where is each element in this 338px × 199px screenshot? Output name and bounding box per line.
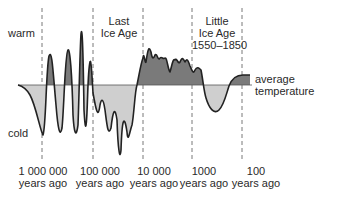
temperature-text: temperature: [255, 85, 314, 97]
last-ice-age-label: Last Ice Age: [99, 15, 139, 39]
tick-unit: years ago: [176, 177, 232, 189]
last-ice-age-line1: Last: [99, 15, 139, 27]
little-ice-age-line2: Ice Age: [192, 27, 242, 39]
tick-unit: years ago: [15, 177, 71, 189]
average-temperature-label: average temperature: [255, 73, 314, 97]
little-ice-age-line1: Little: [192, 15, 242, 27]
tick-value: 100: [228, 165, 284, 177]
tick-label-10000: 10 000 years ago: [126, 165, 182, 189]
tick-label-100: 100 years ago: [228, 165, 284, 189]
tick-label-1000000: 1 000 000 years ago: [15, 165, 71, 189]
tick-value: 1000: [176, 165, 232, 177]
tick-value: 10 000: [126, 165, 182, 177]
tick-value: 1 000 000: [15, 165, 71, 177]
tick-unit: years ago: [126, 177, 182, 189]
tick-label-1000: 1000 years ago: [176, 165, 232, 189]
average-text: average: [255, 73, 314, 85]
tick-unit: years ago: [72, 177, 128, 189]
tick-label-100000: 100 000 years ago: [72, 165, 128, 189]
last-ice-age-line2: Ice Age: [99, 27, 139, 39]
little-ice-age-label: Little Ice Age 1550–1850: [192, 15, 242, 51]
tick-unit: years ago: [228, 177, 284, 189]
warm-label: warm: [8, 27, 35, 39]
cold-label: cold: [8, 127, 28, 139]
little-ice-age-line3: 1550–1850: [192, 39, 242, 51]
tick-value: 100 000: [72, 165, 128, 177]
